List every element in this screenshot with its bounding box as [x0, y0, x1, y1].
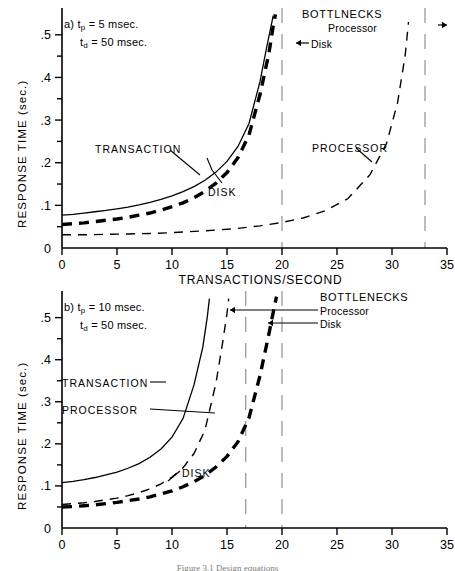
panel-a-param-line2: td = 50 msec. [80, 36, 147, 50]
panel-b-param-prefix: b) [64, 301, 74, 313]
panel-a-label-transaction: TRANSACTION [95, 143, 181, 155]
x-tick-label: 15 [220, 258, 234, 272]
panel-a-bottleneck-processor-label: Processor [328, 22, 377, 34]
panel-b-label-transaction: TRANSACTION [62, 377, 148, 389]
x-tick-label: 20 [275, 258, 289, 272]
x-axis-title: TRANSACTIONS/SECOND [179, 273, 343, 285]
x-tick-label: 10 [165, 538, 179, 552]
annotation-arrowhead [296, 40, 301, 46]
x-tick-label: 0 [59, 538, 66, 552]
panel-a-label-disk: DISK [208, 186, 237, 198]
panel-a-bottlenecks-title: BOTTLNECKS [302, 8, 382, 20]
x-tick-label: 30 [385, 258, 399, 272]
annotation-leader [168, 471, 180, 481]
panel-b-tp-value: = 10 msec. [89, 301, 145, 313]
x-tick-label: 35 [440, 538, 454, 552]
y-origin-label: 0 [44, 242, 51, 256]
y-tick-label: .3 [41, 114, 51, 128]
panel-b-label-disk: DISK [182, 467, 211, 479]
panel-b-bottlenecks-title: BOTTLENECKS [320, 291, 408, 303]
panel-a-tp-subscript: p [81, 23, 86, 32]
y-tick-label: .3 [41, 395, 51, 409]
panel-a-param-prefix: a) [64, 18, 74, 30]
panel-a-tp-value: = 5 msec. [89, 18, 139, 30]
figure-caption: Figure 3.1 Design equations [0, 563, 455, 571]
y-tick-label: .4 [41, 353, 51, 367]
x-tick-label: 15 [220, 538, 234, 552]
annotation-arrowhead [268, 320, 273, 326]
panel-b-param-line1: b) tp = 10 msec. [64, 301, 145, 315]
y-axis-title-b: RESPONSE TIME (sec.) [16, 362, 28, 510]
panel-b-label-processor: PROCESSOR [62, 404, 138, 416]
x-tick-label: 5 [114, 258, 121, 272]
panel-a-label-processor: PROCESSOR [312, 142, 388, 154]
panel-b-td-subscript: d [83, 324, 88, 333]
annotation-leader [207, 158, 222, 183]
x-tick-label: 10 [165, 258, 179, 272]
panel-a-td-subscript: d [83, 41, 88, 50]
chart-b-canvas: .1.2.3.4.5005101520253035TRANSACTIONS/SE… [0, 285, 455, 553]
y-origin-label: 0 [44, 522, 51, 536]
curve-processor [62, 22, 409, 235]
y-tick-label: .5 [41, 28, 51, 42]
panel-a-param-line1: a) tp = 5 msec. [64, 18, 138, 32]
y-tick-label: .2 [41, 437, 51, 451]
x-tick-label: 25 [330, 538, 344, 552]
x-tick-label: 35 [440, 258, 454, 272]
annotation-arrowhead [442, 22, 447, 28]
panel-a: .1.2.3.4.5005101520253035TRANSACTIONS/SE… [0, 0, 455, 285]
panel-b-tp-subscript: p [81, 306, 86, 315]
y-tick-label: .1 [41, 199, 51, 213]
x-tick-label: 0 [59, 258, 66, 272]
panel-b-td-value: = 50 msec. [91, 319, 147, 331]
x-tick-label: 30 [385, 538, 399, 552]
panel-b: .1.2.3.4.5005101520253035TRANSACTIONS/SE… [0, 285, 455, 553]
panel-a-td-value: = 50 msec. [91, 36, 147, 48]
panel-a-bottleneck-disk-label: Disk [311, 38, 332, 50]
x-tick-label: 5 [114, 538, 121, 552]
annotation-arrowhead [230, 307, 235, 313]
y-tick-label: .1 [41, 479, 51, 493]
x-tick-label: 25 [330, 258, 344, 272]
x-tick-label: 20 [275, 538, 289, 552]
panel-b-param-line2: td = 50 msec. [80, 319, 147, 333]
panel-b-bottleneck-disk-label: Disk [320, 318, 341, 330]
y-tick-label: .4 [41, 71, 51, 85]
panel-b-bottleneck-processor-label: Processor [320, 305, 369, 317]
y-tick-label: .2 [41, 156, 51, 170]
annotation-leader [150, 409, 215, 413]
y-tick-label: .5 [41, 311, 51, 325]
y-axis-title-a: RESPONSE TIME (sec.) [16, 80, 28, 228]
